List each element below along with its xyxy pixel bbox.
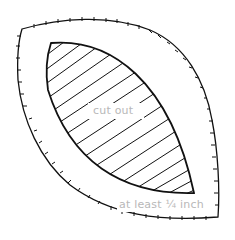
margin-label: at least ¼ inch bbox=[119, 198, 204, 211]
cut-out-label: cut out bbox=[93, 104, 133, 117]
